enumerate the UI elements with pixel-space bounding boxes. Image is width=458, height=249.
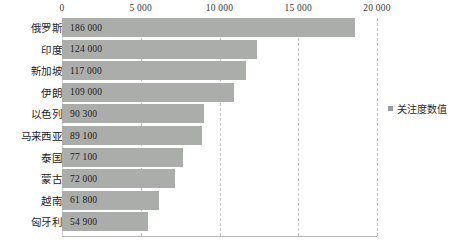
bar-value-label: 77 100 bbox=[62, 148, 97, 167]
bar-rows: 俄罗斯186 000印度124 000新加坡117 000伊朗109 000以色… bbox=[0, 18, 458, 236]
bar-value-label: 90 300 bbox=[62, 104, 97, 123]
category-label: 泰国 bbox=[6, 148, 62, 167]
bar-row: 印度124 000 bbox=[0, 40, 458, 59]
category-label: 蒙古 bbox=[6, 169, 62, 188]
bar-value-label: 117 000 bbox=[62, 61, 102, 80]
bar-row: 泰国77 100 bbox=[0, 148, 458, 167]
bar-value-label: 186 000 bbox=[62, 18, 102, 37]
category-label: 印度 bbox=[6, 40, 62, 59]
bar-value-label: 109 000 bbox=[62, 83, 102, 102]
x-axis-tick-labels: 05 00010 00015 00020 000 bbox=[0, 0, 458, 18]
category-label: 越南 bbox=[6, 191, 62, 210]
legend-label: 关注度数值 bbox=[397, 101, 447, 116]
bar-value-label: 89 100 bbox=[62, 126, 97, 145]
bar-value-label: 54 900 bbox=[62, 212, 97, 231]
x-tick-label: 15 000 bbox=[285, 3, 312, 13]
bar-row: 新加坡117 000 bbox=[0, 61, 458, 80]
category-label: 伊朗 bbox=[6, 83, 62, 102]
bar-row: 蒙古72 000 bbox=[0, 169, 458, 188]
bar-value-label: 124 000 bbox=[62, 40, 102, 59]
horizontal-bar-chart: 05 00010 00015 00020 000 俄罗斯186 000印度124… bbox=[0, 0, 458, 249]
legend: 关注度数值 bbox=[388, 101, 447, 116]
bar-row: 匈牙利54 900 bbox=[0, 212, 458, 231]
bar-row: 越南61 800 bbox=[0, 191, 458, 210]
legend-swatch-icon bbox=[388, 106, 393, 111]
category-label: 新加坡 bbox=[6, 61, 62, 80]
bar-row: 马来西亚89 100 bbox=[0, 126, 458, 145]
x-axis-line bbox=[62, 236, 377, 237]
bar-row: 伊朗109 000 bbox=[0, 83, 458, 102]
x-tick-label: 10 000 bbox=[206, 3, 233, 13]
category-label: 俄罗斯 bbox=[6, 18, 62, 37]
x-tick-label: 0 bbox=[60, 3, 65, 13]
x-tick-label: 20 000 bbox=[363, 3, 390, 13]
bar-row: 俄罗斯186 000 bbox=[0, 18, 458, 37]
bar-value-label: 72 000 bbox=[62, 169, 97, 188]
bar[interactable] bbox=[62, 18, 355, 37]
category-label: 匈牙利 bbox=[6, 212, 62, 231]
x-tick-label: 5 000 bbox=[130, 3, 152, 13]
bar-value-label: 61 800 bbox=[62, 191, 97, 210]
category-label: 以色列 bbox=[6, 104, 62, 123]
category-label: 马来西亚 bbox=[6, 126, 62, 145]
